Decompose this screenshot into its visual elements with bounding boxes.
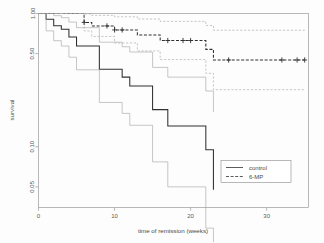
plot-background [0, 0, 324, 243]
survival-plot-figure: 0102030 1.000.500.100.05 time of remissi… [0, 0, 324, 243]
x-tick-label: 20 [187, 213, 194, 219]
legend-label-control: control [249, 165, 267, 171]
legend-label-6mp: 6-MP [249, 174, 263, 180]
x-tick-label: 30 [263, 213, 270, 219]
y-tick-label: 1.00 [30, 7, 36, 19]
y-tick-label: 0.10 [30, 140, 36, 152]
x-axis-title: time of remission (weeks) [138, 227, 208, 234]
y-axis-title: survival [8, 100, 15, 121]
survival-plot-svg: 0102030 1.000.500.100.05 time of remissi… [0, 0, 324, 243]
legend[interactable]: control 6-MP [221, 161, 291, 183]
x-tick-label: 10 [111, 213, 118, 219]
y-tick-label: 0.05 [30, 180, 36, 192]
y-tick-label: 0.50 [30, 47, 36, 59]
